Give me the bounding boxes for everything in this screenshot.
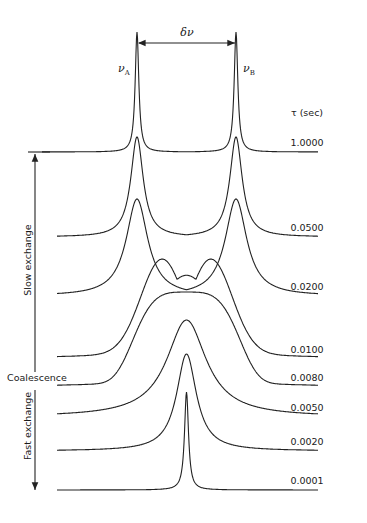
tau-labels: 1.00000.05000.02000.01000.00800.00500.00… bbox=[290, 137, 323, 486]
nmr-exchange-diagram: δν νA νB τ (sec) 1.00000.05000.02000.010… bbox=[0, 0, 367, 523]
tau-value-label: 0.0100 bbox=[290, 344, 323, 355]
spectrum-tau-1.0000 bbox=[42, 32, 318, 152]
coalescence-label: Coalescence bbox=[7, 372, 67, 383]
tau-value-label: 1.0000 bbox=[290, 137, 323, 148]
tau-value-label: 0.0200 bbox=[290, 281, 323, 292]
tau-value-label: 0.0080 bbox=[290, 372, 323, 383]
tau-header: τ (sec) bbox=[291, 107, 323, 118]
tau-value-label: 0.0500 bbox=[290, 222, 323, 233]
tau-value-label: 0.0020 bbox=[290, 436, 323, 447]
spectrum-tau-0.0100 bbox=[57, 259, 318, 357]
peak-b-label: νB bbox=[243, 62, 255, 77]
separation-label: δν bbox=[180, 26, 194, 39]
peak-a-label: νA bbox=[118, 62, 131, 77]
spectrum-tau-0.0080 bbox=[57, 292, 318, 385]
spectrum-tau-0.0001 bbox=[57, 392, 318, 490]
slow-exchange-label: Slow exchange bbox=[22, 224, 33, 296]
fast-exchange-label: Fast exchange bbox=[22, 392, 33, 460]
spectrum-tau-0.0200 bbox=[57, 199, 318, 294]
spectra-stack bbox=[42, 32, 318, 490]
tau-value-label: 0.0050 bbox=[290, 402, 323, 413]
tau-value-label: 0.0001 bbox=[290, 475, 323, 486]
